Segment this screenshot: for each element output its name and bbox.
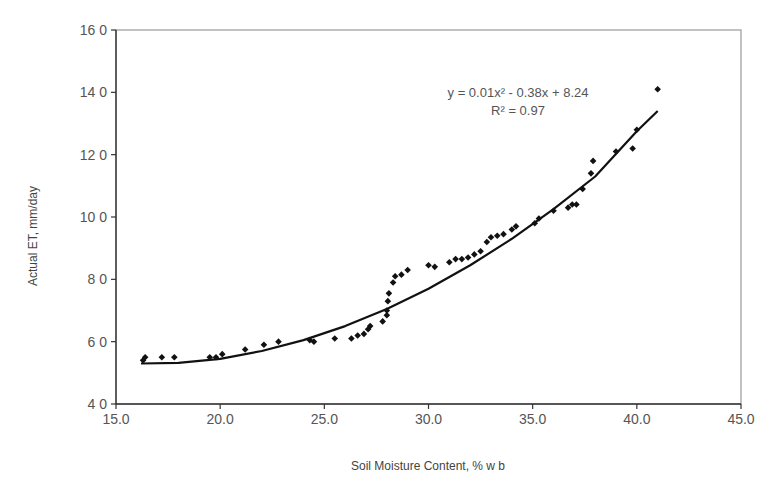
y-tick-label: 6 0 (88, 334, 108, 350)
x-tick-label: 20.0 (207, 411, 234, 427)
x-tick-label: 15.0 (102, 411, 129, 427)
x-tick-label: 45.0 (727, 411, 754, 427)
x-tick-label: 25.0 (311, 411, 338, 427)
y-tick-label: 12 0 (80, 147, 107, 163)
y-tick-label: 8 0 (88, 271, 108, 287)
x-tick-label: 35.0 (519, 411, 546, 427)
y-tick-label: 14 0 (80, 84, 107, 100)
trendline-equation: y = 0.01x² - 0.38x + 8.24 (448, 85, 589, 100)
r-squared-label: R² = 0.97 (491, 103, 545, 118)
y-axis-title: Actual ET, mm/day (26, 186, 40, 286)
y-axis-ticks: 4 06 08 010 012 014 016 0 (80, 22, 116, 412)
x-axis-title: Soil Moisture Content, % w b (351, 459, 505, 473)
x-tick-label: 40.0 (623, 411, 650, 427)
scatter-chart: 4 06 08 010 012 014 016 0 15.020.025.030… (0, 0, 773, 495)
plot-area (116, 30, 741, 404)
y-tick-label: 16 0 (80, 22, 107, 38)
x-tick-label: 30.0 (415, 411, 442, 427)
x-axis-ticks: 15.020.025.030.035.040.045.0 (102, 404, 754, 427)
plot-border (116, 30, 741, 404)
y-tick-label: 10 0 (80, 209, 107, 225)
y-tick-label: 4 0 (88, 396, 108, 412)
